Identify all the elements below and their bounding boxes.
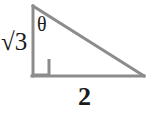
right-angle-marker-icon	[34, 59, 49, 75]
vertical-leg-label-text: √3	[1, 27, 27, 54]
vertical-leg-label: √3	[1, 27, 27, 54]
right-triangle-figure: √3 θ 2	[0, 0, 157, 113]
angle-label: θ	[37, 14, 47, 34]
horizontal-leg-label: 2	[78, 84, 91, 110]
